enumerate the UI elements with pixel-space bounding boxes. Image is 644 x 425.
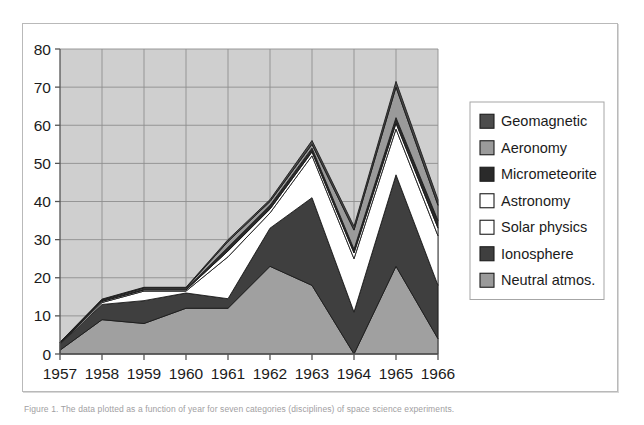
legend-swatch (480, 194, 494, 208)
x-tick-label: 1957 (43, 365, 77, 382)
x-tick-label: 1965 (379, 365, 413, 382)
x-tick-label: 1961 (211, 365, 245, 382)
legend-label: Geomagnetic (501, 113, 587, 129)
legend-label: Solar physics (501, 219, 587, 235)
y-tick-label: 80 (34, 41, 52, 58)
legend-label: Astronomy (501, 193, 571, 209)
legend-swatch (480, 114, 494, 128)
legend-label: Aeronomy (501, 140, 568, 156)
legend: GeomagneticAeronomyMicrometeoriteAstrono… (470, 102, 604, 300)
legend-swatch (480, 273, 494, 287)
x-tick-label: 1966 (421, 365, 455, 382)
y-tick-label: 20 (34, 269, 52, 286)
y-tick-label: 10 (34, 307, 52, 324)
legend-label: Neutral atmos. (501, 272, 595, 288)
x-tick-label: 1960 (169, 365, 204, 382)
legend-label: Micrometeorite (501, 166, 597, 182)
stacked-area-chart: 0102030405060708019571958195919601961196… (23, 24, 619, 393)
x-tick-label: 1958 (85, 365, 119, 382)
figure-container: 0102030405060708019571958195919601961196… (0, 0, 644, 425)
y-axis-ticks: 01020304050607080 (34, 41, 60, 363)
legend-swatch (480, 167, 494, 181)
x-tick-label: 1963 (295, 365, 329, 382)
legend-swatch (480, 247, 494, 261)
x-tick-label: 1959 (127, 365, 161, 382)
y-tick-label: 70 (34, 79, 52, 96)
figure-caption: Figure 1. The data plotted as a function… (24, 404, 624, 415)
x-axis-ticks: 1957195819591960196119621963196419651966 (43, 354, 455, 382)
legend-swatch (480, 141, 494, 155)
y-tick-label: 0 (42, 346, 51, 363)
x-tick-label: 1962 (253, 365, 287, 382)
chart-frame: 0102030405060708019571958195919601961196… (22, 23, 618, 392)
y-tick-label: 50 (34, 155, 52, 172)
y-tick-label: 30 (34, 231, 52, 248)
legend-label: Ionosphere (501, 246, 574, 262)
y-tick-label: 40 (34, 193, 52, 210)
x-tick-label: 1964 (337, 365, 372, 382)
y-tick-label: 60 (34, 117, 52, 134)
legend-swatch (480, 220, 494, 234)
chart-render-root: 0102030405060708019571958195919601961196… (34, 41, 604, 383)
